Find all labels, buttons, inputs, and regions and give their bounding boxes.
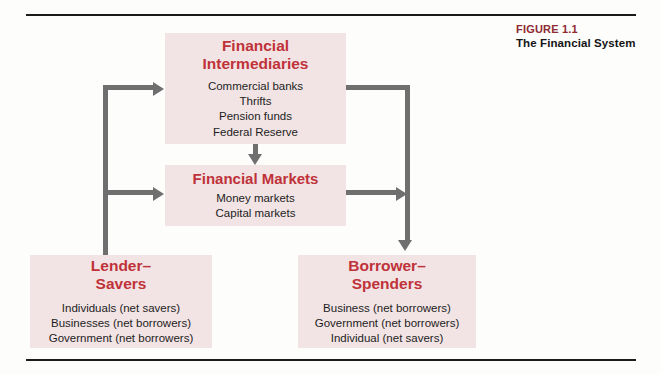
arrowhead-down-icon (248, 154, 262, 165)
connector-lender-to-markets (103, 190, 155, 195)
node-financial-markets: Financial Markets Money markets Capital … (165, 165, 346, 226)
node-items: Commercial banks Thrifts Pension funds F… (208, 79, 303, 140)
connector-intermediaries-to-borrower (346, 85, 410, 90)
arrowhead-right-icon (153, 82, 164, 96)
node-borrower-spenders: Borrower– Spenders Business (net borrowe… (298, 255, 476, 348)
node-title: Financial Markets (193, 170, 319, 187)
connector-lender-riser (103, 85, 108, 255)
arrowhead-right-icon (396, 187, 407, 201)
node-title: Lender– Savers (91, 257, 151, 293)
node-items: Money markets Capital markets (216, 191, 296, 221)
figure-title: The Financial System (516, 36, 646, 51)
connector-markets-to-borrower (346, 190, 398, 195)
figure-page: FIGURE 1.1 The Financial System Financia… (0, 0, 661, 374)
bottom-rule (26, 359, 636, 361)
node-financial-intermediaries: Financial Intermediaries Commercial bank… (165, 33, 346, 144)
figure-number: FIGURE 1.1 (516, 22, 646, 36)
top-rule (26, 14, 636, 16)
connector-right-riser (405, 85, 410, 240)
node-lender-savers: Lender– Savers Individuals (net savers) … (30, 255, 212, 348)
node-items: Business (net borrowers) Government (net… (315, 301, 459, 347)
connector-lender-to-intermediaries (103, 85, 155, 90)
figure-caption: FIGURE 1.1 The Financial System (516, 22, 646, 51)
node-title: Borrower– Spenders (348, 257, 426, 293)
node-items: Individuals (net savers) Businesses (net… (49, 301, 193, 347)
arrowhead-down-icon (398, 240, 412, 251)
arrowhead-right-icon (153, 187, 164, 201)
node-title: Financial Intermediaries (203, 37, 309, 73)
